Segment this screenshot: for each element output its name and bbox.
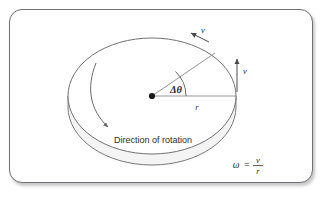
rotating-disk-diagram: Δθ r v v Direction of rotation ω = v r [0,0,330,199]
formula-denominator: r [256,166,260,176]
direction-of-rotation-label: Direction of rotation [114,135,192,145]
velocity-vector-tangential [191,33,209,42]
angular-velocity-formula: ω = v r [233,155,263,176]
formula-numerator: v [256,155,260,165]
figure-root: Δθ r v v Direction of rotation ω = v r [0,0,330,199]
angle-label: Δθ [169,84,183,95]
velocity-label-edge: v [243,66,247,76]
formula-omega: ω [233,160,240,170]
disk-center-point [149,93,155,99]
formula-equals: = [244,160,249,170]
velocity-label-tangential: v [201,25,205,35]
